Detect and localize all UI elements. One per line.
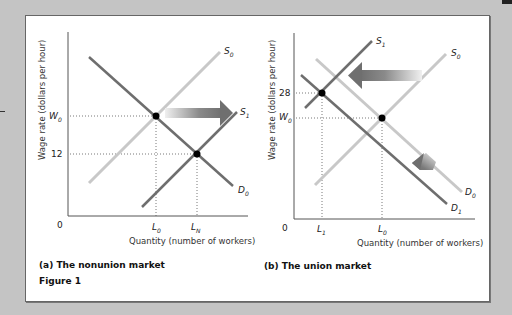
label-s0: S0 (224, 46, 234, 58)
x-tick-l0: L0 (152, 222, 161, 234)
equilibrium-point-12 (194, 151, 201, 158)
equilibrium-point-w0 (379, 115, 386, 122)
x-tick-l0: L0 (378, 224, 387, 236)
x-tick-ln: LN (191, 222, 201, 234)
chart-a: W0 12 0 L0 LN S0 S1 D0 Wage rate (dollar… (37, 32, 255, 246)
demand-curve-d0 (89, 57, 233, 186)
caption-a: (a) The nonunion market (39, 260, 165, 270)
label-s1: S1 (376, 36, 386, 48)
x-tick-l1: L1 (317, 224, 326, 236)
equilibrium-point-w0 (153, 113, 160, 120)
shift-right-arrow-icon (165, 100, 233, 126)
figure-label: Figure 1 (39, 276, 81, 286)
supply-curve-s1 (142, 112, 237, 207)
y-axis-label: Wage rate (dollars per hour) (37, 40, 47, 160)
caption-b: (b) The union market (264, 261, 371, 271)
y-tick-w0: W0 (279, 112, 292, 124)
y-axis-label: Wage rate (dollars per hour) (267, 40, 277, 160)
equilibrium-point-28 (319, 90, 326, 97)
chart-b: 28 W0 0 L1 L0 S1 S0 D0 D1 Wage rate (dol… (267, 33, 483, 248)
shift-left-arrow-icon (348, 62, 422, 89)
label-s0: S0 (451, 48, 461, 60)
label-s1: S1 (240, 107, 250, 119)
label-d0: D0 (238, 185, 249, 197)
y-tick-28: 28 (279, 88, 291, 98)
y-tick-w0: W0 (49, 111, 62, 123)
y-tick-12: 12 (51, 149, 62, 159)
label-d1: D1 (451, 203, 462, 215)
x-axis-label: Quantity (number of workers) (129, 236, 255, 246)
origin-label: 0 (57, 220, 63, 230)
label-d0: D0 (465, 187, 476, 199)
x-axis-label: Quantity (number of workers) (357, 238, 483, 248)
origin-label: 0 (282, 223, 288, 233)
demand-shift-arrow-icon (412, 153, 436, 170)
